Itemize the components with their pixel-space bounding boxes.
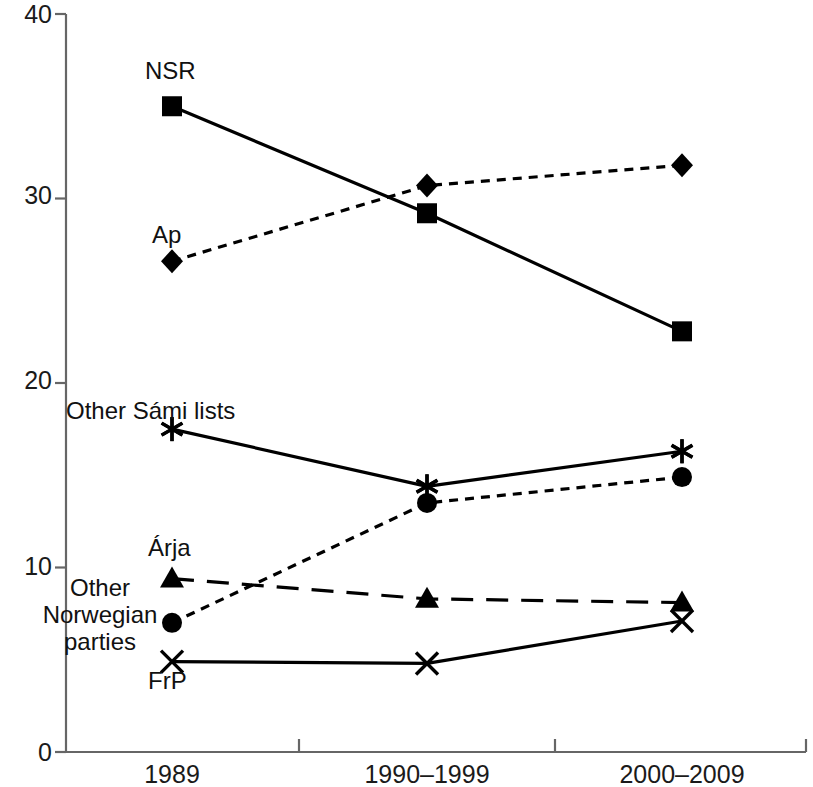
- marker-circle-3-0: [162, 613, 182, 633]
- series-label-other-norwegian-parties: Other Norwegian parties: [39, 575, 161, 656]
- series-label-frp: FrP: [148, 668, 187, 695]
- x-axis-ticks: [299, 739, 806, 752]
- marker-circle-3-2: [672, 467, 692, 487]
- marker-circle-3-1: [417, 493, 437, 513]
- marker-diamond-1-2: [671, 153, 693, 177]
- marker-diamond-1-1: [416, 174, 438, 198]
- y-tick-label-0: 0: [0, 740, 52, 765]
- y-tick-label-40: 40: [0, 2, 52, 27]
- series-label-arja: Árja: [148, 535, 191, 562]
- y-tick-label-20: 20: [0, 368, 52, 393]
- series-markers: [160, 96, 694, 674]
- series-line-5: [172, 621, 682, 663]
- x-tick-label-2000-2009: 2000–2009: [612, 762, 752, 787]
- marker-square-0-0: [162, 96, 182, 116]
- x-tick-label-1990-1999: 1990–1999: [357, 762, 497, 787]
- chart-container: 40 30 20 10 0 1989 1990–1999 2000–2009 N…: [0, 0, 813, 787]
- chart-plot-area: [0, 0, 813, 787]
- x-tick-label-1989: 1989: [102, 762, 242, 787]
- marker-triangle-4-0: [160, 567, 184, 588]
- marker-square-0-1: [417, 203, 437, 223]
- series-label-other-sami-lists: Other Sámi lists: [66, 398, 235, 425]
- series-label-ap: Ap: [152, 222, 181, 249]
- axis-lines: [66, 14, 806, 752]
- marker-square-0-2: [672, 321, 692, 341]
- y-tick-label-30: 30: [0, 183, 52, 208]
- marker-diamond-1-0: [161, 249, 183, 273]
- series-label-nsr: NSR: [145, 58, 196, 85]
